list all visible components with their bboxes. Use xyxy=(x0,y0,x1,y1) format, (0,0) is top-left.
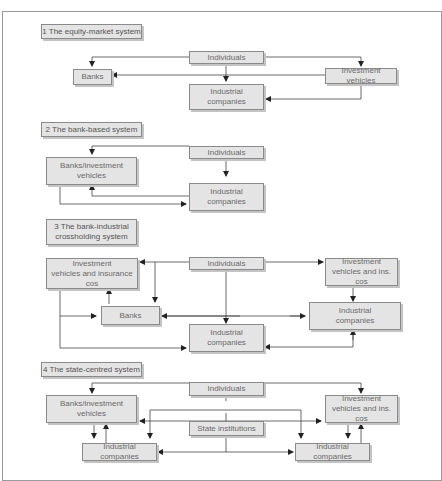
s1-individuals-box: Individuals xyxy=(189,51,264,64)
section-1-label: 1 The equity-market system xyxy=(41,24,142,39)
s4-industrial-companies-right-box: Industrial companies xyxy=(295,443,370,461)
s4-state-institutions-box: State institutions xyxy=(189,421,264,436)
s3-banks-box: Banks xyxy=(101,306,160,325)
s4-banks-investment-box: Banks/investment vehicles xyxy=(46,395,137,423)
section-4-label: 4 The state-centred system xyxy=(41,362,142,377)
s3-individuals-box: Individuals xyxy=(189,257,264,270)
s2-individuals-box: Individuals xyxy=(189,146,264,159)
s4-investment-ins-box: Investment vehicles and ins. cos xyxy=(325,395,398,423)
s2-banks-investment-box: Banks/investment vehicles xyxy=(46,157,137,185)
section-3-label: 3 The bank-industrial crossholding syste… xyxy=(46,219,137,245)
s3-investment-insurance-box: Investment vehicles and insurance cos xyxy=(46,258,138,289)
section-2-label: 2 The bank-based system xyxy=(41,122,142,137)
s1-industrial-companies-box: Industrial companies xyxy=(189,84,264,110)
s3-industrial-companies-center-box: Industrial companies xyxy=(189,324,264,352)
s3-investment-ins-box: Investment vehicles and ins. cos xyxy=(325,258,398,286)
s1-banks-box: Banks xyxy=(73,69,112,85)
s3-industrial-companies-right-box: Industrial companies xyxy=(309,302,401,330)
s4-individuals-box: Individuals xyxy=(189,382,264,396)
s2-industrial-companies-box: Industrial companies xyxy=(189,183,264,211)
s1-investment-vehicles-box: Investment vehicles xyxy=(325,68,397,84)
s4-industrial-companies-left-box: Industrial companies xyxy=(82,443,157,461)
